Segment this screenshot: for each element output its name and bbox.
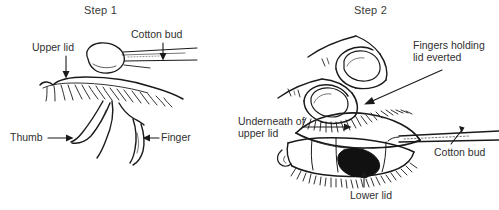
eyelid-eversion-figure: Step 1 Step 2 Upper lid Cotton bud Thumb… [0,0,499,210]
label-finger: Finger [161,131,191,143]
label-thumb: Thumb [10,131,43,143]
illustration-canvas [0,0,499,210]
label-cotton-bud-step2: Cotton bud [434,146,485,158]
label-fingers-holding-lid-everted: Fingers holding lid everted [413,39,497,63]
panel-title-step-1: Step 1 [84,4,117,16]
label-cotton-bud-step1: Cotton bud [131,28,182,40]
panel-title-step-2: Step 2 [354,4,387,16]
label-underneath-of-upper-lid: Underneath of upper lid [238,115,308,139]
figure-background [0,0,499,210]
label-upper-lid: Upper lid [32,41,74,53]
label-lower-lid: Lower lid [350,189,392,201]
